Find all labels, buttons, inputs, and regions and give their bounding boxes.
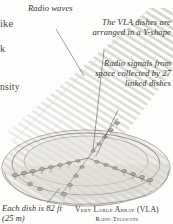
dish xyxy=(95,161,99,164)
dish xyxy=(97,143,101,146)
callout-y-shape: The VLA dishes are arranged in a Y-shape xyxy=(68,17,171,37)
dish xyxy=(37,187,42,190)
dish xyxy=(27,182,32,185)
callout-radio-waves: Radio waves xyxy=(28,3,76,13)
figure-canvas: ike k nsity Radio waves The VLA dishes a… xyxy=(0,0,173,224)
dish xyxy=(109,129,114,132)
dish xyxy=(67,162,72,165)
callout-radio-signals: Radio signals from space collected by 27… xyxy=(93,58,171,88)
dish xyxy=(80,166,84,169)
callout-each-dish: Each dish is 82 ft (25 m) xyxy=(2,204,64,224)
figure-title-line-1: Very Large Array (VLA) xyxy=(62,205,172,214)
edge-fragment-ike: ike xyxy=(0,18,13,29)
dish xyxy=(104,164,109,167)
dish xyxy=(76,160,80,163)
edge-fragment-k: k xyxy=(0,43,5,54)
figure-title-line-2: Radio Telescope xyxy=(62,215,172,222)
dish xyxy=(91,150,95,153)
edge-fragment-nsity: nsity xyxy=(0,81,20,92)
dish xyxy=(74,175,79,178)
dish xyxy=(113,167,118,170)
figure-title: Very Large Array (VLA) Radio Telescope xyxy=(62,205,172,222)
